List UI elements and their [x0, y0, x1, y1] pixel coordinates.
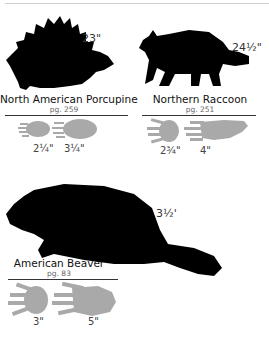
raccoon-front-track-size: 2¾" — [160, 145, 181, 156]
porcupine-page: pg. 259 — [0, 105, 128, 114]
raccoon-silhouette-icon — [139, 28, 251, 90]
raccoon-page: pg. 251 — [140, 105, 260, 114]
beaver-front-track-icon — [8, 282, 48, 318]
porcupine-name: North American Porcupine — [0, 93, 128, 105]
raccoon-hind-track-size: 4" — [200, 145, 211, 156]
beaver-rule — [8, 279, 118, 280]
raccoon-rule — [142, 115, 256, 116]
porcupine-silhouette-icon — [4, 12, 116, 92]
raccoon-name: Northern Raccoon — [140, 93, 260, 105]
porcupine-front-track-icon — [18, 120, 50, 138]
beaver-page: pg. 83 — [0, 269, 118, 278]
raccoon-front-track-icon — [147, 118, 179, 144]
beaver-name: American Beaver — [0, 257, 118, 269]
beaver-length: 3½' — [156, 207, 177, 220]
top-divider — [5, 3, 269, 4]
porcupine-length: 23" — [82, 32, 101, 45]
porcupine-hind-track-icon — [52, 118, 98, 140]
beaver-hind-track-icon — [52, 282, 118, 318]
porcupine-rule — [5, 115, 128, 116]
porcupine-front-track-size: 2¼" — [33, 143, 54, 154]
beaver-front-track-size: 3" — [33, 316, 44, 327]
porcupine-hind-track-size: 3¼" — [64, 143, 85, 154]
raccoon-hind-track-icon — [184, 118, 250, 142]
beaver-hind-track-size: 5" — [88, 316, 99, 327]
raccoon-length: 24½" — [232, 41, 262, 54]
